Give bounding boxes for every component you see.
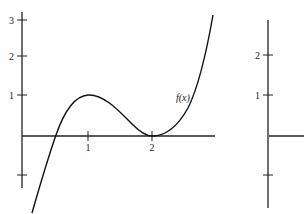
left-plot: 3 2 1 1 2 f(x) — [9, 12, 215, 213]
right-y-tick-label-2: 2 — [255, 50, 260, 61]
y-tick-label-2: 2 — [9, 51, 14, 62]
graph-figure: 3 2 1 1 2 f(x) 2 1 — [0, 0, 304, 214]
right-plot: 2 1 — [255, 20, 304, 208]
curve-f-x — [32, 15, 213, 213]
x-tick-label-1: 1 — [86, 142, 91, 153]
right-y-tick-label-1: 1 — [255, 90, 260, 101]
y-tick-label-3: 3 — [9, 15, 14, 26]
y-tick-label-1: 1 — [9, 90, 14, 101]
x-tick-label-2: 2 — [150, 142, 155, 153]
curve-label: f(x) — [176, 92, 191, 104]
